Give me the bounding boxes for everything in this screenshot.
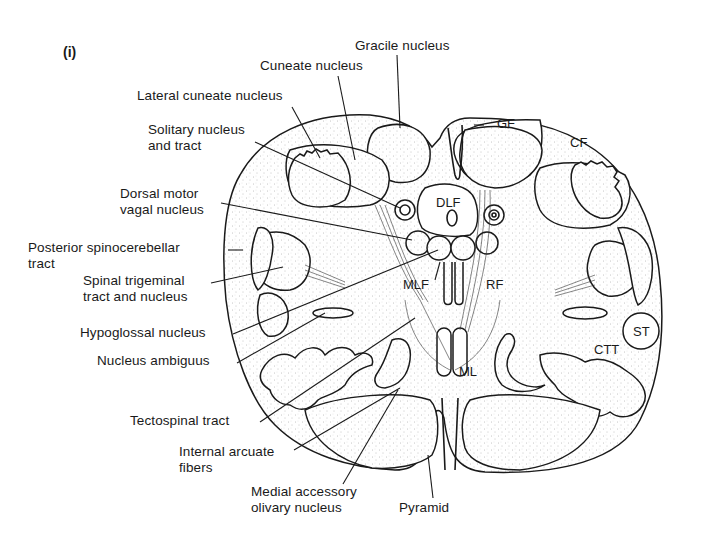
- hypoglossal-nucleus-right: [451, 236, 475, 260]
- medulla-cross-section-figure: (i) Gracile nucleus Cuneate nucleus Late…: [0, 0, 720, 536]
- label-tectospinal-tract: Tectospinal tract: [130, 413, 229, 429]
- label-pyramid: Pyramid: [399, 500, 449, 516]
- label-gracile-nucleus: Gracile nucleus: [355, 38, 450, 54]
- label-internal-arcuate: Internal arcuate fibers: [179, 444, 274, 476]
- label-spinal-trigeminal: Spinal trigeminal tract and nucleus: [83, 273, 188, 305]
- label-st: ST: [633, 324, 650, 339]
- panel-label: (i): [63, 44, 76, 60]
- label-dlf: DLF: [436, 195, 461, 210]
- medial-lemniscus-left: [437, 328, 451, 376]
- label-mlf: MLF: [403, 277, 429, 292]
- label-solitary-nucleus: Solitary nucleus and tract: [148, 122, 245, 154]
- label-dorsal-motor-vagal: Dorsal motor vagal nucleus: [120, 186, 204, 218]
- label-hypoglossal-nucleus: Hypoglossal nucleus: [80, 325, 206, 341]
- label-lateral-cuneate-nucleus: Lateral cuneate nucleus: [137, 88, 283, 104]
- label-cf: CF: [570, 135, 587, 150]
- hypoglossal-nucleus-left: [427, 236, 451, 260]
- label-ctt: CTT: [594, 342, 619, 357]
- label-cuneate-nucleus: Cuneate nucleus: [260, 58, 363, 74]
- dlf-region: [417, 184, 477, 236]
- label-rf: RF: [486, 277, 503, 292]
- label-ml: ML: [459, 364, 477, 379]
- label-nucleus-ambiguus: Nucleus ambiguus: [97, 353, 210, 369]
- label-gf: GF: [497, 116, 515, 131]
- dorsal-motor-vagal-nucleus-left: [406, 231, 430, 255]
- label-posterior-spinocerebellar: Posterior spinocerebellar tract: [28, 240, 180, 272]
- label-medial-accessory-olivary: Medial accessory olivary nucleus: [251, 484, 357, 516]
